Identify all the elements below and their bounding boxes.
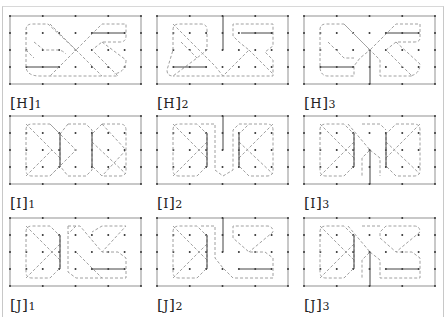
panel-J1: [J]1 bbox=[10, 218, 150, 314]
knot-diagram-H1 bbox=[10, 16, 142, 86]
panel-label-J2: [J]2 bbox=[157, 296, 183, 314]
panel-label-H2: [H]2 bbox=[157, 94, 189, 112]
panel-J2: [J]2 bbox=[157, 218, 297, 314]
panel-I1: [I]1 bbox=[10, 116, 150, 212]
knot-diagram-I2 bbox=[157, 116, 289, 186]
panel-I2: [I]2 bbox=[157, 116, 297, 212]
panel-H1: [H]1 bbox=[10, 16, 150, 112]
knot-diagram-I1 bbox=[10, 116, 142, 186]
knot-diagram-H3 bbox=[304, 16, 436, 86]
panel-J3: [J]3 bbox=[304, 218, 444, 314]
panel-label-J1: [J]1 bbox=[10, 296, 36, 314]
knot-diagram-I3 bbox=[304, 116, 436, 186]
knot-diagram-J3 bbox=[304, 218, 436, 288]
knot-diagram-J2 bbox=[157, 218, 289, 288]
panel-I3: [I]3 bbox=[304, 116, 444, 212]
panel-label-H3: [H]3 bbox=[304, 94, 336, 112]
knot-diagram-H2 bbox=[157, 16, 289, 86]
knot-diagram-J1 bbox=[10, 218, 142, 288]
panel-H2: [H]2 bbox=[157, 16, 297, 112]
panel-label-I2: [I]2 bbox=[157, 194, 183, 212]
panel-H3: [H]3 bbox=[304, 16, 444, 112]
panel-label-I1: [I]1 bbox=[10, 194, 36, 212]
panel-label-I3: [I]3 bbox=[304, 194, 330, 212]
panel-label-J3: [J]3 bbox=[304, 296, 330, 314]
panel-label-H1: [H]1 bbox=[10, 94, 42, 112]
